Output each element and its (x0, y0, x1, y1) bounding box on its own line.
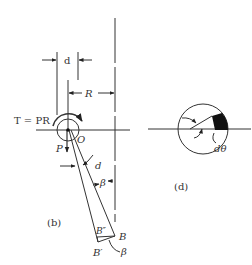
line-o-to-b (71, 130, 115, 236)
panel-b-label: (b) (47, 217, 61, 228)
b-double-prime-label: B″ (95, 226, 107, 236)
d-mid-label: d (95, 160, 101, 171)
d-mid-arrow-right (83, 155, 93, 165)
b-label: B (118, 231, 126, 242)
torque-label: T = PR (14, 115, 50, 126)
panel-d-label: (d) (174, 181, 188, 192)
radial-line-upper (190, 116, 212, 129)
segment-b-prime-up (97, 237, 98, 242)
beta-mid-label: β (99, 177, 106, 188)
shaded-element (212, 113, 228, 130)
angle-arrow-lower (194, 129, 202, 138)
panel-d (148, 104, 251, 154)
d-top-label: d (64, 55, 71, 66)
o-label: O (77, 134, 85, 145)
dtheta-pointer (213, 133, 216, 143)
b-prime-label: B′ (92, 247, 103, 258)
line-o-to-b-prime (69, 130, 98, 242)
dtheta-label: dθ (214, 143, 226, 154)
beta-bottom-label: β (120, 246, 127, 257)
r-label: R (84, 88, 93, 99)
point-o (66, 128, 70, 132)
diagram-figure: T = PR d R O P d β (b) B″ B B′ β dθ (d) (0, 0, 252, 265)
p-label: P (55, 143, 63, 154)
angle-arrow-upper (182, 118, 196, 123)
